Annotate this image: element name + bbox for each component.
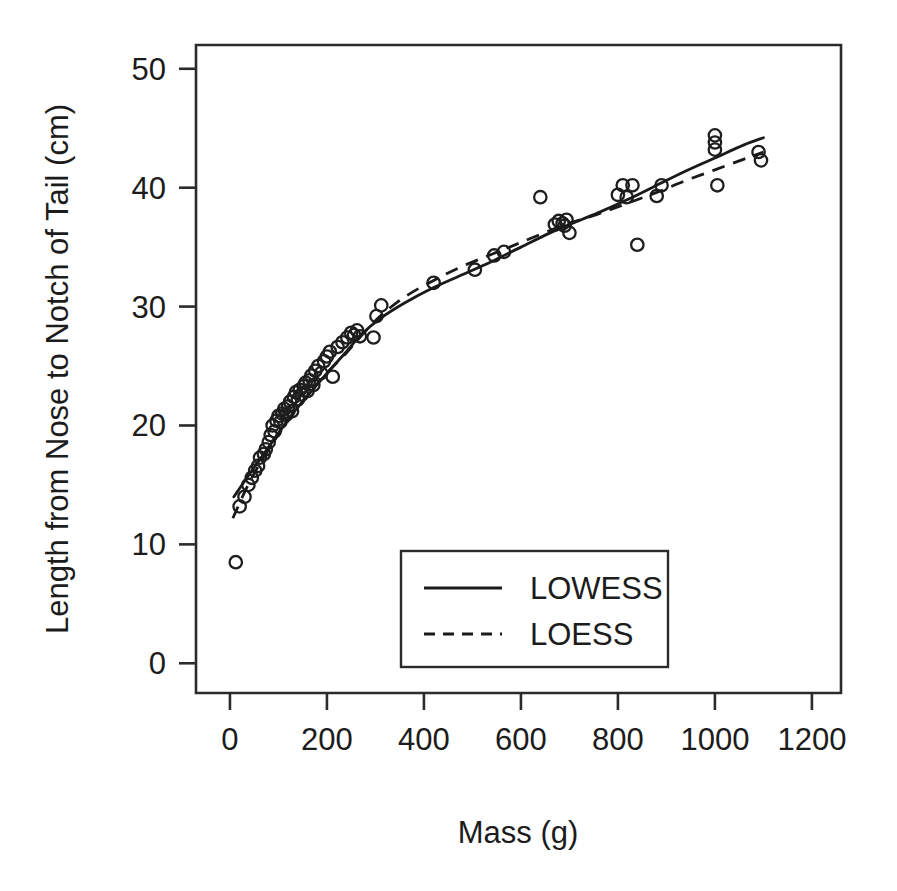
- legend-label-lowess: LOWESS: [530, 571, 663, 606]
- y-tick-label: 10: [132, 527, 166, 562]
- x-tick-label: 1000: [680, 722, 749, 757]
- x-tick-label: 400: [398, 722, 450, 757]
- x-tick-label: 0: [221, 722, 238, 757]
- x-axis-title: Mass (g): [458, 815, 579, 850]
- x-tick-label: 1200: [777, 722, 846, 757]
- legend[interactable]: LOWESS LOESS: [401, 551, 668, 667]
- x-tick-label: 600: [495, 722, 547, 757]
- x-tick-label: 200: [301, 722, 353, 757]
- y-tick-label: 0: [149, 646, 166, 681]
- x-tick-label: 800: [592, 722, 644, 757]
- legend-label-loess: LOESS: [530, 617, 633, 652]
- figure-background: [0, 0, 897, 891]
- y-axis-title: Length from Nose to Notch of Tail (cm): [40, 104, 75, 634]
- y-tick-label: 30: [132, 290, 166, 325]
- scatter-plot-svg: 01020304050 020040060080010001200 LOWESS…: [0, 0, 897, 891]
- y-tick-label: 20: [132, 408, 166, 443]
- y-tick-label: 50: [132, 52, 166, 87]
- chart-figure: 01020304050 020040060080010001200 LOWESS…: [0, 0, 897, 891]
- y-tick-label: 40: [132, 171, 166, 206]
